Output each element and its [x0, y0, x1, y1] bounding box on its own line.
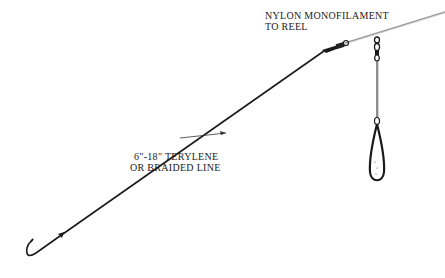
- fishing-rig-diagram: NYLON MONOFILAMENT TO REEL 6"-18" TERYLE…: [0, 0, 445, 278]
- hook: [27, 232, 64, 255]
- leader-label-line1: 6"-18" TERYLENE: [130, 151, 221, 162]
- callout-arrowhead: [220, 131, 226, 135]
- reel-line-label-line2: TO REEL: [265, 21, 389, 32]
- reel-line-label-line1: NYLON MONOFILAMENT: [265, 10, 389, 21]
- leader-line: [60, 51, 324, 236]
- leader-label-line2: OR BRAIDED LINE: [130, 162, 221, 173]
- rig-drawing: [0, 0, 445, 278]
- reel-line-label: NYLON MONOFILAMENT TO REEL: [265, 10, 389, 32]
- leader-label: 6"-18" TERYLENE OR BRAIDED LINE: [130, 151, 221, 173]
- sinker-link: [375, 37, 380, 125]
- sinker-weight: [370, 124, 384, 180]
- swivel: [322, 41, 349, 54]
- leader-callout-pointer: [180, 133, 226, 138]
